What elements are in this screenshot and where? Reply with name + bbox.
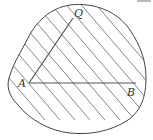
point-label-a: A bbox=[17, 77, 26, 90]
region-boundary bbox=[8, 4, 146, 133]
point-label-q: Q bbox=[74, 7, 83, 20]
segment-aq bbox=[29, 18, 73, 83]
region-diagram: A B Q bbox=[0, 0, 153, 140]
point-label-b: B bbox=[126, 86, 135, 99]
